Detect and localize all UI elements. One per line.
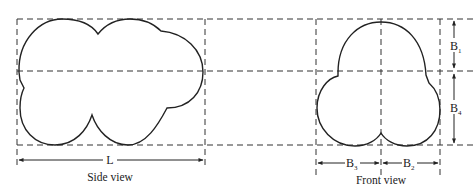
side-view-caption: Side view xyxy=(87,171,133,183)
front-view-outline xyxy=(317,22,440,146)
dimension-B3-label: B3 xyxy=(346,156,358,172)
dimension-B2-label: B2 xyxy=(403,156,415,172)
front-view-caption: Front view xyxy=(356,174,407,186)
dashed-guides xyxy=(17,19,476,176)
dimension-L-label: L xyxy=(106,153,113,167)
side-view-outline xyxy=(19,19,203,145)
two-view-drawing: L Side view B1 B4 B3 B2 Front view xyxy=(0,0,476,194)
